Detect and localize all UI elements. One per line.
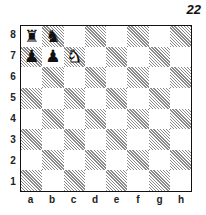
- square-b7: ♟: [42, 47, 63, 68]
- white-knight-icon: ♞: [67, 48, 82, 65]
- square-a6: [21, 67, 42, 88]
- square-h1: [170, 170, 191, 191]
- square-f5: [127, 88, 148, 109]
- square-g5: [149, 88, 170, 109]
- square-b1: [42, 170, 63, 191]
- square-b8: ♞: [42, 26, 63, 47]
- rank-label-1: 1: [9, 176, 17, 187]
- square-b5: [42, 88, 63, 109]
- square-a2: [21, 150, 42, 171]
- file-label-d: d: [85, 194, 106, 205]
- square-h4: [170, 109, 191, 130]
- square-c5: [64, 88, 85, 109]
- square-g2: [149, 150, 170, 171]
- file-label-e: e: [106, 194, 127, 205]
- black-knight-icon: ♞: [45, 28, 60, 45]
- rank-label-3: 3: [9, 134, 17, 145]
- black-rook-icon: ♜: [24, 28, 39, 45]
- square-b4: [42, 109, 63, 130]
- square-h8: [170, 26, 191, 47]
- square-e1: [106, 170, 127, 191]
- square-f1: [127, 170, 148, 191]
- square-d8: [85, 26, 106, 47]
- square-d5: [85, 88, 106, 109]
- square-d4: [85, 109, 106, 130]
- square-h3: [170, 129, 191, 150]
- square-d2: [85, 150, 106, 171]
- square-f4: [127, 109, 148, 130]
- square-f3: [127, 129, 148, 150]
- file-label-b: b: [42, 194, 63, 205]
- square-f7: [127, 47, 148, 68]
- square-d3: [85, 129, 106, 150]
- square-e2: [106, 150, 127, 171]
- square-e4: [106, 109, 127, 130]
- rank-label-7: 7: [9, 50, 17, 61]
- square-c4: [64, 109, 85, 130]
- square-b3: [42, 129, 63, 150]
- square-e6: [106, 67, 127, 88]
- square-h2: [170, 150, 191, 171]
- square-a7: ♟: [21, 47, 42, 68]
- rank-label-6: 6: [9, 71, 17, 82]
- square-d1: [85, 170, 106, 191]
- rank-label-5: 5: [9, 92, 17, 103]
- square-a1: [21, 170, 42, 191]
- square-h6: [170, 67, 191, 88]
- square-a4: [21, 109, 42, 130]
- square-d6: [85, 67, 106, 88]
- square-c3: [64, 129, 85, 150]
- square-a8: ♜: [21, 26, 42, 47]
- square-f2: [127, 150, 148, 171]
- diagram-number: 22: [187, 2, 201, 17]
- square-g6: [149, 67, 170, 88]
- square-a5: [21, 88, 42, 109]
- file-label-c: c: [63, 194, 84, 205]
- rank-label-8: 8: [9, 29, 17, 40]
- square-e7: [106, 47, 127, 68]
- square-b2: [42, 150, 63, 171]
- rank-label-2: 2: [9, 155, 17, 166]
- square-h5: [170, 88, 191, 109]
- square-f8: [127, 26, 148, 47]
- file-label-h: h: [171, 194, 192, 205]
- black-pawn-icon: ♟: [45, 48, 60, 65]
- square-c2: [64, 150, 85, 171]
- square-f6: [127, 67, 148, 88]
- square-a3: [21, 129, 42, 150]
- square-g8: [149, 26, 170, 47]
- square-g3: [149, 129, 170, 150]
- square-b6: [42, 67, 63, 88]
- square-c7: ♞: [64, 47, 85, 68]
- file-label-f: f: [128, 194, 149, 205]
- file-label-a: a: [20, 194, 41, 205]
- square-e3: [106, 129, 127, 150]
- square-c1: [64, 170, 85, 191]
- square-c6: [64, 67, 85, 88]
- square-g7: [149, 47, 170, 68]
- square-g4: [149, 109, 170, 130]
- square-d7: [85, 47, 106, 68]
- square-e8: [106, 26, 127, 47]
- file-label-g: g: [149, 194, 170, 205]
- square-g1: [149, 170, 170, 191]
- rank-label-4: 4: [9, 113, 17, 124]
- chess-board: ♜♞♟♟♞: [20, 25, 192, 192]
- square-e5: [106, 88, 127, 109]
- square-c8: [64, 26, 85, 47]
- square-h7: [170, 47, 191, 68]
- black-pawn-icon: ♟: [24, 48, 39, 65]
